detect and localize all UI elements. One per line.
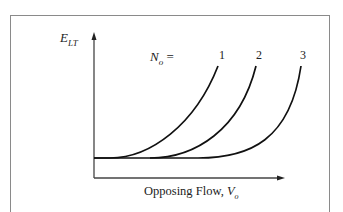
x-axis-arrow-icon	[277, 176, 285, 181]
legend-prefix: No =	[150, 49, 174, 67]
series-label-1: 1	[219, 48, 225, 63]
curve-series-3	[150, 66, 301, 158]
y-axis-arrow-icon	[92, 32, 97, 40]
x-axis-label: Opposing Flow, Vo	[144, 184, 239, 201]
series-label-2: 2	[256, 48, 262, 63]
curve-series-2	[110, 66, 256, 158]
chart-canvas	[0, 0, 343, 212]
x-axis	[94, 176, 285, 181]
y-axis	[92, 32, 97, 178]
curve-series-1	[94, 66, 218, 158]
series-label-3: 3	[300, 48, 306, 63]
y-axis-label: ELT	[60, 30, 78, 48]
